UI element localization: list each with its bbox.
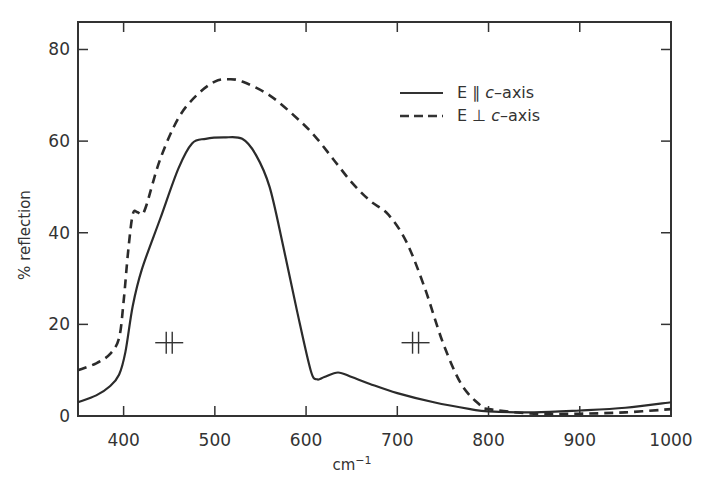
legend-label-perpendicular: E ⊥ c–axis [457,106,540,125]
series-perpendicular-line [78,79,671,414]
x-tick-label: 1000 [649,430,692,450]
slit-width-markers [155,332,429,354]
data-series [78,79,671,414]
y-tick-label: 40 [48,223,70,243]
x-tick-label: 400 [107,430,139,450]
y-axis-title: % reflection [16,190,34,280]
plot-frame [78,22,671,416]
y-tick-label: 60 [48,131,70,151]
y-axis-ticks: 020406080 [48,39,671,426]
slit-width-marker-icon [155,332,183,354]
series-parallel-line [78,137,671,412]
y-tick-label: 20 [48,314,70,334]
y-tick-label: 80 [48,39,70,59]
legend: E ∥ c–axis E ⊥ c–axis [400,83,540,125]
slit-width-marker-icon [402,332,430,354]
x-axis-title: cm−1 [332,454,371,474]
legend-label-parallel: E ∥ c–axis [457,83,534,102]
x-tick-label: 800 [472,430,504,450]
reflection-spectrum-chart: 4005006007008009001000 020406080 E ∥ c–a… [0,0,711,492]
y-tick-label: 0 [59,406,70,426]
x-axis-ticks: 4005006007008009001000 [107,22,692,450]
x-tick-label: 500 [199,430,231,450]
x-tick-label: 700 [381,430,413,450]
x-tick-label: 900 [564,430,596,450]
x-tick-label: 600 [290,430,322,450]
